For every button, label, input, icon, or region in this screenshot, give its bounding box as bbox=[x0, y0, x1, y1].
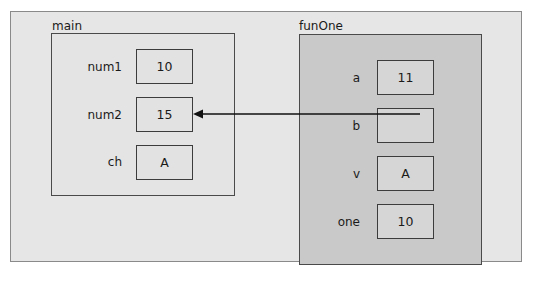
var-cell-num2: 15 bbox=[136, 97, 193, 132]
var-value-one: 10 bbox=[398, 214, 414, 229]
var-label-a: a bbox=[300, 71, 360, 85]
var-label-num1: num1 bbox=[62, 60, 122, 74]
var-label-one: one bbox=[300, 215, 360, 229]
var-value-num1: 10 bbox=[157, 59, 173, 74]
var-label-ch: ch bbox=[62, 155, 122, 169]
var-label-num2: num2 bbox=[62, 108, 122, 122]
var-value-a: 11 bbox=[398, 70, 414, 85]
var-cell-v: A bbox=[377, 156, 434, 191]
var-value-v: A bbox=[401, 166, 410, 181]
var-label-b: b bbox=[300, 119, 360, 133]
var-value-num2: 15 bbox=[157, 107, 173, 122]
var-label-v: v bbox=[300, 167, 360, 181]
var-cell-ch: A bbox=[136, 145, 193, 180]
var-cell-num1: 10 bbox=[136, 49, 193, 84]
main-frame-label: main bbox=[52, 20, 82, 32]
var-cell-b bbox=[377, 108, 434, 143]
var-cell-a: 11 bbox=[377, 60, 434, 95]
var-value-ch: A bbox=[160, 155, 169, 170]
var-cell-one: 10 bbox=[377, 204, 434, 239]
funone-frame-label: funOne bbox=[299, 20, 343, 32]
